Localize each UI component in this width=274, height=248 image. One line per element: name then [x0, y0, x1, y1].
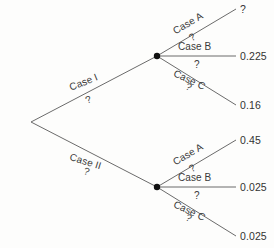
outcome-value-case-i-case-b: 0.225 [240, 51, 267, 62]
outcome-value-case-i-case-a: ? [240, 4, 246, 15]
outcome-value-case-i-case-c: 0.16 [240, 100, 261, 111]
tree-edges-svg [0, 0, 274, 248]
edge-root-case-i [31, 56, 157, 122]
branch-label-case-ii-case-b: Case B [178, 173, 211, 183]
branch-label-case-i-case-b: Case B [178, 42, 211, 52]
edge-root-case-ii [31, 122, 157, 187]
branch-probability-case-ii-case-b: ? [194, 191, 200, 201]
probability-tree-diagram: Case I ? Case II ? Case A ? Case B ? Cas… [0, 0, 274, 248]
outcome-value-case-ii-case-c: 0.025 [240, 231, 267, 242]
case-i-node [154, 53, 160, 59]
outcome-value-case-ii-case-a: 0.45 [240, 135, 261, 146]
outcome-value-case-ii-case-b: 0.025 [240, 182, 267, 193]
branch-probability-case-i-case-b: ? [194, 60, 200, 70]
case-ii-node [154, 184, 160, 190]
